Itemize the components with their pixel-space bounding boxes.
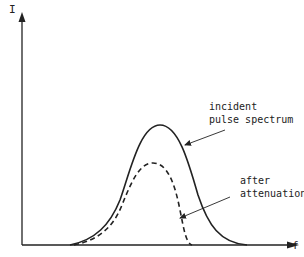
incident-label-line2: pulse spectrum — [209, 114, 293, 125]
incident-spectrum-curve — [70, 125, 247, 245]
after-label-line2: attenuation — [240, 188, 304, 199]
attenuation-leader-line — [180, 197, 230, 218]
incident-leader-line — [185, 130, 225, 145]
y-axis-label: I — [9, 3, 16, 16]
spectrum-diagram: I f incident pulse spectrum after attenu… — [0, 0, 304, 257]
x-axis-label: f — [292, 239, 299, 252]
y-axis-arrowhead — [19, 12, 26, 22]
after-label-line1: after — [240, 175, 270, 186]
attenuated-spectrum-curve — [74, 163, 192, 245]
incident-label-line1: incident — [209, 101, 257, 112]
